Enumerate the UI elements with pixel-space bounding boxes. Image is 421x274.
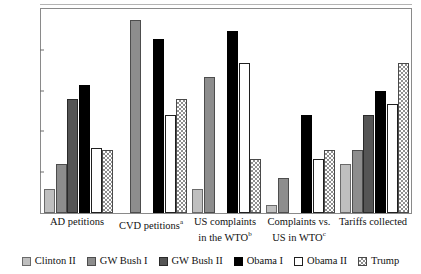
bar — [352, 150, 363, 213]
bar — [91, 148, 102, 213]
bar — [301, 115, 312, 213]
bar — [387, 104, 398, 213]
bar — [67, 99, 78, 213]
legend-item[interactable]: GW Bush II — [159, 256, 223, 267]
bar — [250, 159, 261, 213]
bar-group — [337, 9, 411, 213]
bar — [79, 85, 90, 213]
bar — [102, 150, 113, 213]
chart-legend: Clinton IIGW Bush IGW Bush IIObama IObam… — [0, 252, 421, 270]
x-axis-group-label: Complaints vs.US in WTOc — [262, 216, 336, 244]
legend-swatch-icon — [22, 257, 31, 266]
bar-group — [189, 9, 263, 213]
bar — [266, 205, 277, 213]
legend-label: Obama I — [247, 256, 283, 267]
legend-item[interactable]: Obama I — [234, 256, 283, 267]
legend-item[interactable]: Trump — [358, 256, 399, 267]
bar — [375, 91, 386, 213]
x-axis-group-label: CVD petitionsa — [114, 216, 188, 232]
legend-swatch-icon — [87, 257, 96, 266]
bar — [363, 115, 374, 213]
bar-group — [41, 9, 115, 213]
bar — [398, 63, 409, 213]
bar — [192, 189, 203, 213]
x-axis-group-label: Tariffs collected — [336, 216, 410, 228]
bar — [56, 164, 67, 213]
legend-swatch-icon — [159, 257, 168, 266]
bar — [44, 189, 55, 213]
legend-label: Obama II — [307, 256, 347, 267]
legend-label: Clinton II — [35, 256, 76, 267]
bar — [324, 150, 335, 213]
bar — [340, 164, 351, 213]
bar-group — [115, 9, 189, 213]
bar-series-layer — [41, 9, 411, 213]
legend-label: GW Bush II — [172, 256, 223, 267]
bar — [227, 31, 238, 213]
chart-container: 15304560 AD petitionsCVD petitionsaUS co… — [0, 0, 421, 274]
bar — [239, 63, 250, 213]
bar — [176, 99, 187, 213]
bar — [278, 178, 289, 213]
legend-swatch-icon — [294, 257, 303, 266]
bar — [153, 39, 164, 213]
bar-group — [263, 9, 337, 213]
bar — [130, 20, 141, 213]
legend-swatch-icon — [358, 257, 367, 266]
top-rule — [40, 4, 412, 5]
legend-label: Trump — [371, 256, 399, 267]
bar — [204, 77, 215, 213]
x-axis-labels: AD petitionsCVD petitionsaUS complaintsi… — [40, 216, 412, 250]
x-axis-group-label: US complaintsin the WTOb — [188, 216, 262, 244]
bar — [313, 159, 324, 213]
bar — [165, 115, 176, 213]
y-axis: 15304560 — [0, 0, 40, 222]
legend-swatch-icon — [234, 257, 243, 266]
legend-label: GW Bush I — [100, 256, 148, 267]
legend-item[interactable]: GW Bush I — [87, 256, 148, 267]
legend-item[interactable]: Obama II — [294, 256, 347, 267]
x-axis-group-label: AD petitions — [40, 216, 114, 228]
legend-item[interactable]: Clinton II — [22, 256, 76, 267]
